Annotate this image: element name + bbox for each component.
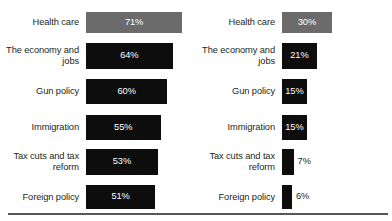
category-label: Gun policy [196, 86, 282, 97]
chart-panel-left: Health care71%The economy and jobs64%Gun… [0, 0, 196, 207]
bar-value-label: 53% [113, 157, 131, 166]
chart-row: Immigration15% [196, 115, 392, 140]
category-label: The economy and jobs [196, 45, 282, 67]
bar-value-label: 71% [125, 18, 143, 27]
bar-value-label: 51% [111, 192, 129, 201]
bar-value-label: 7% [298, 157, 311, 166]
bar-zone: 53% [86, 149, 196, 175]
bar-zone: 55% [86, 115, 196, 140]
chart-panel-right: Health care30%The economy and jobs21%Gun… [196, 0, 392, 207]
bar[interactable] [282, 149, 294, 175]
bar-value-label: 30% [298, 18, 316, 27]
chart-row: Health care30% [196, 12, 392, 33]
category-label: Health care [196, 17, 282, 28]
bar-value-label: 60% [117, 87, 135, 96]
bar-value-label: 21% [290, 51, 308, 60]
category-label: Health care [0, 17, 86, 28]
bar[interactable]: 60% [86, 79, 167, 104]
bar[interactable]: 15% [282, 115, 307, 140]
category-label: Foreign policy [196, 192, 282, 203]
category-label: Gun policy [0, 86, 86, 97]
chart-row: Foreign policy51% [0, 185, 196, 209]
bar[interactable]: 30% [282, 12, 332, 33]
bottom-divider-rule [8, 213, 388, 215]
chart-row: Foreign policy6% [196, 185, 392, 209]
bar-zone: 51% [86, 185, 196, 209]
bar[interactable]: 64% [86, 43, 173, 69]
bar[interactable]: 21% [282, 43, 317, 69]
chart-row: Tax cuts and tax reform7% [196, 149, 392, 175]
bar-zone: 60% [86, 79, 196, 104]
bar-zone: 7% [282, 149, 392, 175]
bar-zone: 6% [282, 185, 392, 209]
chart-row: Health care71% [0, 12, 196, 33]
bar-value-label: 64% [120, 51, 138, 60]
chart-row: The economy and jobs64% [0, 43, 196, 69]
bar-zone: 15% [282, 79, 392, 104]
chart-row: The economy and jobs21% [196, 43, 392, 69]
bar[interactable]: 51% [86, 185, 155, 209]
category-label: The economy and jobs [0, 45, 86, 67]
bar-with-outside-label: 7% [282, 149, 311, 175]
bar[interactable]: 15% [282, 79, 307, 104]
bar-chart: Health care71%The economy and jobs64%Gun… [0, 0, 392, 221]
chart-row: Immigration55% [0, 115, 196, 140]
bar[interactable]: 71% [86, 12, 182, 33]
bar[interactable]: 53% [86, 149, 158, 175]
category-label: Tax cuts and tax reform [196, 151, 282, 173]
bar-value-label: 6% [296, 192, 309, 201]
category-label: Immigration [196, 122, 282, 133]
bar-zone: 15% [282, 115, 392, 140]
chart-row: Tax cuts and tax reform53% [0, 149, 196, 175]
bar-zone: 30% [282, 12, 392, 33]
bar[interactable] [282, 185, 292, 209]
category-label: Foreign policy [0, 192, 86, 203]
bar-with-outside-label: 6% [282, 185, 309, 209]
bar-value-label: 15% [285, 87, 303, 96]
bar-zone: 71% [86, 12, 196, 33]
category-label: Tax cuts and tax reform [0, 151, 86, 173]
category-label: Immigration [0, 122, 86, 133]
bar-zone: 21% [282, 43, 392, 69]
bar-value-label: 15% [285, 123, 303, 132]
bar[interactable]: 55% [86, 115, 161, 140]
chart-row: Gun policy60% [0, 79, 196, 104]
chart-row: Gun policy15% [196, 79, 392, 104]
bar-zone: 64% [86, 43, 196, 69]
bar-value-label: 55% [114, 123, 132, 132]
